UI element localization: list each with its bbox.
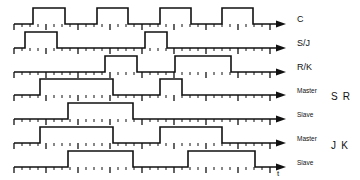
signal-row xyxy=(14,56,286,78)
signal-name-label: Slave xyxy=(297,159,314,166)
signal-trace xyxy=(14,127,277,143)
signal-trace xyxy=(14,151,277,167)
time-axis-label: t xyxy=(277,169,280,178)
flipflop-group-labels: S RJ K xyxy=(331,91,351,151)
axis-ticks xyxy=(14,24,270,30)
signal-name-label: Master xyxy=(297,87,318,94)
signal-rows xyxy=(14,8,286,173)
axis-arrowhead xyxy=(276,116,286,123)
signal-row xyxy=(14,103,286,125)
signal-row xyxy=(14,8,286,30)
signal-row xyxy=(14,79,286,101)
axis-arrowhead xyxy=(276,45,286,52)
signal-trace xyxy=(14,56,277,72)
signal-row xyxy=(14,151,286,173)
flipflop-group-label: S R xyxy=(331,91,351,102)
axis-ticks xyxy=(14,72,270,78)
signal-row xyxy=(14,127,286,149)
axis-arrowhead xyxy=(276,92,286,99)
waveform-canvas: CS/JR/KMasterSlaveMasterSlave S RJ K t xyxy=(0,0,360,180)
axis-ticks xyxy=(14,143,270,149)
signal-trace xyxy=(14,8,277,24)
axis-ticks xyxy=(14,48,270,54)
axis-ticks xyxy=(14,167,270,173)
timing-diagram-figure: CS/JR/KMasterSlaveMasterSlave S RJ K t xyxy=(0,0,360,180)
signal-trace xyxy=(14,32,277,48)
signal-name-label: S/J xyxy=(297,38,310,48)
signal-name-label: Master xyxy=(297,135,318,142)
axis-arrowhead xyxy=(276,21,286,28)
axis-arrowhead xyxy=(276,140,286,147)
signal-name-label: R/K xyxy=(297,62,312,72)
signal-trace xyxy=(14,79,277,95)
axis-ticks xyxy=(14,95,270,101)
axis-ticks xyxy=(14,119,270,125)
signal-row xyxy=(14,32,286,54)
signal-trace xyxy=(14,103,277,119)
signal-name-label: Slave xyxy=(297,111,314,118)
signal-labels: CS/JR/KMasterSlaveMasterSlave xyxy=(297,14,318,165)
signal-name-label: C xyxy=(297,14,304,24)
axis-arrowhead xyxy=(276,69,286,76)
flipflop-group-label: J K xyxy=(331,140,349,151)
